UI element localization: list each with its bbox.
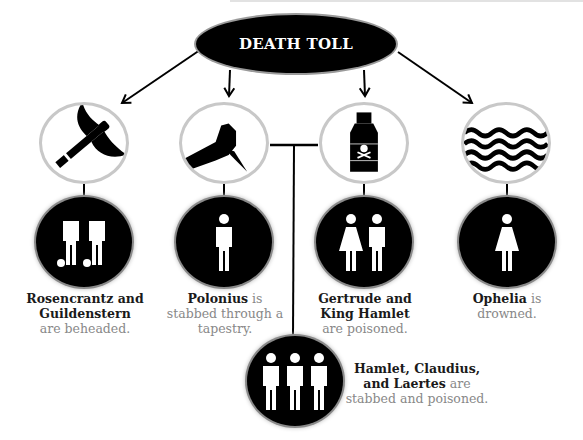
poison-circle — [319, 102, 409, 184]
victim-gertrude-king-hamlet — [316, 197, 412, 287]
death-toll-title: DEATH TOLL — [196, 15, 396, 73]
caption-rosencrantz-guildenstern: Rosencrantz and Guildenstern are beheade… — [20, 291, 150, 336]
caption-gertrude-king-hamlet: Gertrude and King Hamlet are poisoned. — [300, 291, 430, 336]
caption-ophelia: Ophelia is drowned. — [442, 291, 572, 321]
poison-bottle-icon — [322, 105, 406, 181]
caption-names: Rosencrantz and Guildenstern — [26, 291, 143, 321]
caption-fate: are beheaded. — [40, 321, 130, 336]
male-figure-icon — [176, 197, 272, 287]
caption-verb: are — [446, 376, 471, 391]
caption-names: Polonius — [188, 291, 248, 306]
female-figure-icon — [459, 197, 555, 287]
water-circle — [461, 102, 551, 184]
dagger-circle — [179, 102, 269, 184]
caption-verb: is — [527, 291, 541, 306]
hand-dagger-icon — [182, 105, 266, 181]
caption-verb: is — [248, 291, 262, 306]
beheaded-figures-icon — [36, 197, 132, 287]
three-male-figures-icon — [247, 336, 343, 426]
caption-fate: stabbed through a tapestry. — [167, 306, 283, 336]
female-male-figures-icon — [316, 197, 412, 287]
title-text: DEATH TOLL — [239, 35, 353, 53]
caption-names: Ophelia — [473, 291, 527, 306]
axe-icon — [42, 105, 126, 181]
caption-fate: stabbed and poisoned. — [346, 391, 489, 406]
caption-fate: are poisoned. — [322, 321, 408, 336]
victim-ophelia — [459, 197, 555, 287]
victim-polonius — [176, 197, 272, 287]
victim-hamlet-claudius-laertes — [247, 336, 343, 426]
caption-fate: drowned. — [477, 306, 537, 321]
caption-hamlet-claudius-laertes: Hamlet, Claudius, and Laertes are stabbe… — [342, 361, 492, 406]
waves-icon — [464, 105, 548, 181]
axe-circle — [39, 102, 129, 184]
victim-rosencrantz-guildenstern — [36, 197, 132, 287]
caption-names: Gertrude and King Hamlet — [318, 291, 412, 321]
caption-polonius: Polonius is stabbed through a tapestry. — [160, 291, 290, 336]
